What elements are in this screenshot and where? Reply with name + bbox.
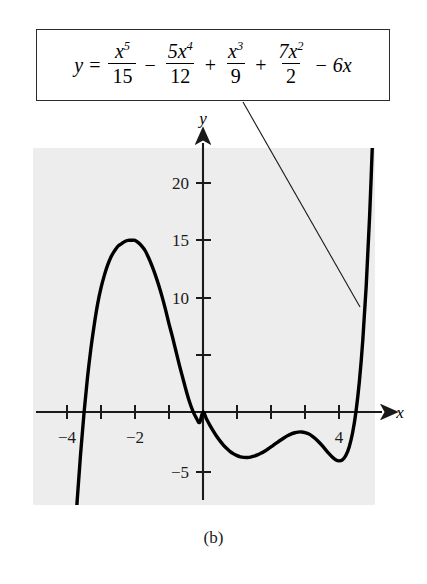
y-tick-label--5: −5 xyxy=(171,463,189,482)
axes xyxy=(36,143,382,500)
y-axis-label: y xyxy=(197,109,207,128)
figure-panel-b: y = x5 15 − 5x4 12 + x3 9 + 7x2 2 − 6x xyxy=(0,0,427,584)
x-tick-label--2: −2 xyxy=(126,428,144,447)
figure-caption: (b) xyxy=(0,528,427,548)
graph-svg: −4 −2 4 20 15 10 −5 x y xyxy=(0,0,427,584)
polynomial-curve xyxy=(53,77,374,584)
x-tick-label-4: 4 xyxy=(335,428,344,447)
x-tick-label--4: −4 xyxy=(58,428,77,447)
y-tick-label-10: 10 xyxy=(172,289,189,308)
x-axis-label: x xyxy=(395,403,404,422)
y-tick-label-20: 20 xyxy=(172,174,189,193)
callout-leader-line xyxy=(243,102,360,307)
y-tick-label-15: 15 xyxy=(172,231,189,250)
